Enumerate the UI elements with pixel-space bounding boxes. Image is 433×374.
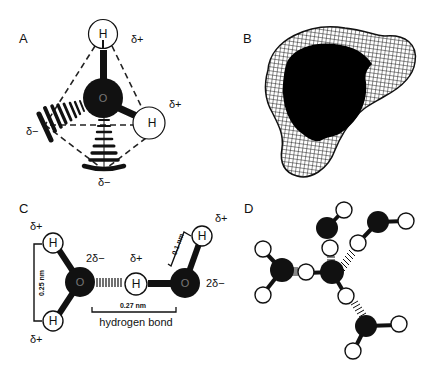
oxygen-atom-d-top [316, 217, 338, 239]
distance-oh-label: 0.1 nm [171, 233, 185, 256]
oxygen-atom-d-lower [355, 315, 377, 337]
hydrogen-label-a-right: H [148, 116, 157, 130]
panel-b: B [243, 27, 415, 177]
hydrogen-label-c4: H [198, 229, 207, 243]
water-structure-figure: A [0, 0, 433, 374]
lone-pair-left [39, 101, 84, 140]
charge-c-o2: 2δ− [206, 277, 225, 289]
charge-c-h2: δ+ [30, 333, 43, 345]
hydrogen-label-a-top: H [99, 27, 108, 41]
panel-c-label: C [19, 201, 28, 216]
panel-c: C 0.25 nm 0.1 nm O H H [19, 201, 228, 345]
panel-a-label: A [19, 31, 28, 46]
hydrogen-label-c3: H [132, 277, 141, 291]
hydrogen-bond-hatch [97, 278, 121, 287]
charge-c-o1: 2δ− [86, 252, 105, 264]
oxygen-label-c2: O [181, 277, 190, 289]
hydrogen-bond-caption: hydrogen bond [99, 316, 172, 328]
electron-density-core [283, 44, 372, 142]
distance-hh-label: 0.25 nm [38, 270, 45, 296]
charge-c-h3: δ+ [130, 252, 143, 264]
oxygen-atom-d-left [270, 258, 294, 282]
charge-c-h4: δ+ [215, 212, 228, 224]
oxygen-label-a: O [99, 92, 108, 104]
charge-c-h1: δ+ [30, 220, 43, 232]
oxygen-label-c1: O [76, 276, 85, 288]
charge-a-top: δ+ [131, 33, 144, 45]
charge-a-left: δ− [26, 125, 39, 137]
hydrogen-label-c2: H [49, 314, 58, 328]
charge-a-bottom: δ− [98, 176, 111, 188]
panel-b-label: B [243, 31, 252, 46]
bond-o-h-top [100, 50, 107, 80]
distance-oo-label: 0.27 nm [120, 302, 146, 309]
oxygen-atom-d-upper-right [367, 211, 389, 233]
panel-d: D [244, 201, 414, 359]
lone-pair-bottom [84, 116, 124, 169]
panel-a: A [19, 20, 182, 189]
oxygen-atom-d-center [320, 260, 344, 284]
hydrogen-label-c1: H [49, 236, 58, 250]
panel-d-label: D [244, 201, 253, 216]
charge-a-right: δ+ [169, 98, 182, 110]
